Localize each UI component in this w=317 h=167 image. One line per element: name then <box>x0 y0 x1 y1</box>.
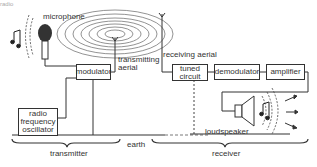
microphone-icon <box>38 24 52 59</box>
rf-oscillator-block: radio frequency oscillator <box>18 108 58 136</box>
transmitter-brace <box>12 139 120 147</box>
music-notes-icon <box>11 30 21 48</box>
sound-waves-icon <box>26 15 34 58</box>
transmitting-aerial-label: transmitting aerial <box>118 56 159 72</box>
demodulator-block: demodulator <box>214 64 260 80</box>
microphone-label: microphone <box>43 12 85 21</box>
corner-text: radio <box>0 0 13 9</box>
diagram-lines <box>0 0 317 167</box>
tuned-circuit-block: tuned circuit <box>172 64 208 81</box>
sound-arrows-icon <box>285 95 298 129</box>
receiving-aerial-label: receiving aerial <box>163 50 217 59</box>
receiver-label: receiver <box>212 149 240 158</box>
music-notes-icon <box>260 102 270 120</box>
earth-label: earth <box>127 140 145 149</box>
loudspeaker-icon <box>235 96 254 126</box>
receiver-brace <box>152 139 308 147</box>
transmitter-label: transmitter <box>50 149 88 158</box>
modulator-block: modulator <box>76 64 111 80</box>
amplifier-block: amplifier <box>266 64 305 80</box>
loudspeaker-label: loudspeaker <box>205 127 249 136</box>
